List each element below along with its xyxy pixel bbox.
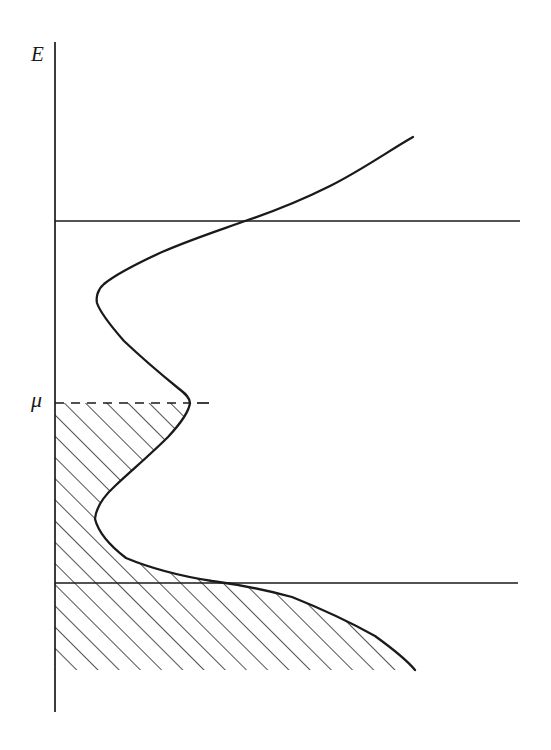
- energy-axis-label: E: [31, 44, 44, 65]
- chemical-potential-label: μ: [31, 389, 42, 411]
- density-of-states-figure: [0, 0, 551, 750]
